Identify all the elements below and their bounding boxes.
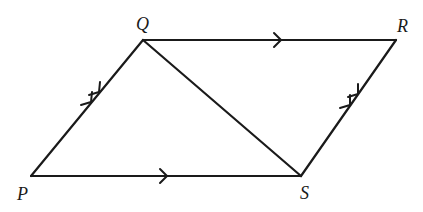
vertex-label-s: S bbox=[300, 183, 309, 203]
vertex-label-q: Q bbox=[136, 14, 149, 34]
double-arrow-icon-sr bbox=[340, 84, 358, 108]
vertex-label-p: P bbox=[16, 184, 28, 204]
vertex-label-r: R bbox=[396, 16, 408, 36]
parallelogram-diagram: Q R P S bbox=[0, 0, 423, 212]
edge-pq bbox=[31, 40, 143, 176]
edge-sr bbox=[301, 40, 396, 176]
diagonal-qs bbox=[143, 40, 301, 176]
double-arrow-icon-pq bbox=[81, 82, 100, 105]
